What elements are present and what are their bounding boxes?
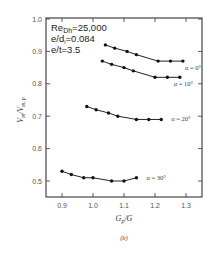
series-label: α = 10° [174, 80, 194, 87]
y-tick-label: 0.5 [32, 178, 42, 185]
y-tick-label: 0.6 [32, 145, 42, 152]
data-point [110, 63, 113, 66]
data-point [153, 76, 156, 79]
x-tick-label: 1.1 [119, 202, 129, 209]
annotation-e-over-t: e/t=3.5 [51, 44, 80, 55]
data-series: α = 0°α = 10°α = 20°α = 30° [60, 43, 201, 182]
data-point [178, 76, 181, 79]
series-1: α = 10° [101, 59, 194, 87]
x-tick-label: 1.2 [150, 202, 160, 209]
data-point [132, 69, 135, 72]
data-point [107, 111, 110, 114]
data-point [122, 66, 125, 69]
chart: 0.50.60.70.80.91.0 0.91.01.11.21.3 α = 0… [0, 0, 210, 259]
x-tick-label: 1.0 [88, 202, 98, 209]
data-point [113, 46, 116, 49]
y-tick-label: 0.9 [32, 48, 42, 55]
data-point [160, 118, 163, 121]
series-label: α = 20° [171, 115, 191, 122]
x-tick-label: 1.3 [181, 202, 191, 209]
data-point [82, 176, 85, 179]
data-point [85, 105, 88, 108]
y-tick-label: 1.0 [32, 16, 42, 23]
data-point [91, 176, 94, 179]
series-label: α = 0° [185, 64, 202, 71]
y-tick-label: 0.8 [32, 80, 42, 87]
data-point [122, 179, 125, 182]
x-tick-label: 0.9 [57, 202, 67, 209]
data-point [135, 118, 138, 121]
data-point [181, 59, 184, 62]
figure-caption: (b) [120, 234, 128, 242]
data-point [110, 179, 113, 182]
data-point [166, 76, 169, 79]
data-point [94, 108, 97, 111]
data-point [156, 59, 159, 62]
data-point [169, 59, 172, 62]
data-point [125, 50, 128, 53]
x-axis-label: Gp/G [116, 214, 133, 224]
data-point [135, 53, 138, 56]
data-point [104, 43, 107, 46]
data-point [116, 115, 119, 118]
data-point [147, 118, 150, 121]
data-point [135, 176, 138, 179]
y-axis-label: Vm/Vm, p [16, 97, 26, 123]
y-tick-label: 0.7 [32, 113, 42, 120]
series-label: α = 30° [146, 174, 166, 181]
data-point [60, 170, 63, 173]
series-0: α = 0° [104, 43, 202, 71]
series-2: α = 20° [85, 105, 191, 123]
series-3: α = 30° [60, 170, 166, 183]
data-point [101, 59, 104, 62]
data-point [70, 173, 73, 176]
